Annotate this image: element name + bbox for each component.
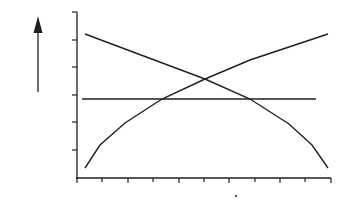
x-ticks	[77, 178, 331, 183]
y-arrow-icon	[34, 16, 43, 92]
curve-c	[85, 34, 328, 168]
axes	[76, 12, 331, 179]
curve-a	[85, 34, 328, 168]
y-ticks	[72, 12, 77, 150]
chart-canvas	[0, 0, 342, 213]
